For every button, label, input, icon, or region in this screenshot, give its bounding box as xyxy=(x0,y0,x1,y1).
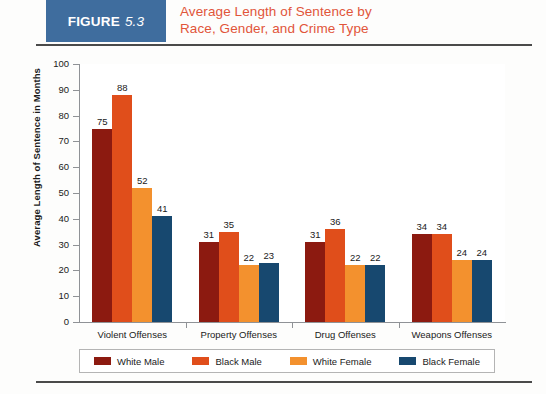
y-axis-tick-label: 10 xyxy=(40,290,69,301)
y-axis-tick xyxy=(73,322,79,323)
legend-item[interactable]: Black Male xyxy=(192,356,261,367)
y-axis-tick-label: 0 xyxy=(40,316,69,327)
bar-value-label: 41 xyxy=(147,203,177,214)
y-axis-tick-label: 50 xyxy=(40,187,69,198)
bar xyxy=(305,242,325,322)
y-axis-tick-label: 30 xyxy=(40,239,69,250)
bar xyxy=(412,234,432,322)
bar xyxy=(472,260,492,322)
x-axis-category-label: Property Offenses xyxy=(186,329,293,340)
figure-badge-number: 5.3 xyxy=(125,14,144,29)
bar-value-label: 23 xyxy=(254,250,284,261)
bar xyxy=(365,265,385,322)
y-axis-tick-label: 70 xyxy=(40,135,69,146)
bar-value-label: 34 xyxy=(427,221,457,232)
footer-divider-rule xyxy=(36,381,532,383)
bar-group: 75885241 xyxy=(79,64,186,322)
bar xyxy=(345,265,365,322)
bar xyxy=(199,242,219,322)
bar-value-label: 52 xyxy=(127,175,157,186)
x-axis-tick xyxy=(292,323,293,328)
bar-value-label: 88 xyxy=(107,82,137,93)
figure-badge-word: FIGURE xyxy=(68,14,120,29)
legend-swatch-icon xyxy=(94,357,111,365)
bar xyxy=(92,129,112,323)
x-axis-category-label: Violent Offenses xyxy=(79,329,186,340)
bar-group: 31352223 xyxy=(186,64,293,322)
legend-label: Black Female xyxy=(422,356,480,367)
bar-value-label: 36 xyxy=(320,216,350,227)
legend-label: White Male xyxy=(117,356,165,367)
bar xyxy=(452,260,472,322)
legend-label: Black Male xyxy=(215,356,261,367)
chart-legend: White MaleBlack MaleWhite FemaleBlack Fe… xyxy=(79,349,495,373)
bar xyxy=(152,216,172,322)
bar-value-label: 22 xyxy=(360,252,390,263)
x-axis-tick xyxy=(186,323,187,328)
bar xyxy=(325,229,345,322)
bar xyxy=(112,95,132,322)
x-axis-category-label: Weapons Offenses xyxy=(399,329,506,340)
figure-title: Average Length of Sentence by Race, Gend… xyxy=(180,4,520,37)
figure-number-badge: FIGURE 5.3 xyxy=(46,0,166,42)
y-axis-tick-label: 60 xyxy=(40,161,69,172)
y-axis-tick-label: 100 xyxy=(40,58,69,69)
bar-value-label: 24 xyxy=(467,247,497,258)
bar xyxy=(219,232,239,322)
bar-value-label: 35 xyxy=(214,219,244,230)
y-axis-tick-label: 20 xyxy=(40,264,69,275)
bar-group: 34342424 xyxy=(399,64,506,322)
legend-item[interactable]: Black Female xyxy=(399,356,480,367)
legend-label: White Female xyxy=(313,356,372,367)
bar xyxy=(239,265,259,322)
bar-group: 31362222 xyxy=(292,64,399,322)
y-axis-tick-label: 80 xyxy=(40,110,69,121)
legend-swatch-icon xyxy=(399,357,416,365)
bar xyxy=(259,263,279,322)
legend-item[interactable]: White Male xyxy=(94,356,165,367)
legend-swatch-icon xyxy=(192,357,209,365)
y-axis-tick-label: 90 xyxy=(40,84,69,95)
legend-item[interactable]: White Female xyxy=(290,356,372,367)
legend-swatch-icon xyxy=(290,357,307,365)
x-axis-category-label: Drug Offenses xyxy=(292,329,399,340)
bar-chart: Average Length of Sentence in Months 010… xyxy=(0,52,546,342)
figure-header: FIGURE 5.3 Average Length of Sentence by… xyxy=(0,0,546,46)
figure-title-line-1: Average Length of Sentence by xyxy=(180,4,520,21)
figure-title-line-2: Race, Gender, and Crime Type xyxy=(180,21,520,38)
y-axis-tick-label: 40 xyxy=(40,213,69,224)
header-divider-rule xyxy=(36,44,532,46)
x-axis-tick xyxy=(399,323,400,328)
